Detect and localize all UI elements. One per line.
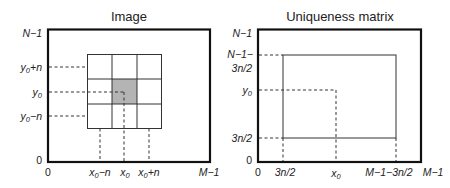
- label-N-minus-1: N−1: [232, 27, 252, 39]
- label-3n-half-bottom: 3n/2: [232, 132, 253, 144]
- label-y0: y0: [32, 86, 43, 100]
- label-3n-half-top: 3n/2: [232, 62, 253, 74]
- uniqueness-guides: [259, 55, 396, 161]
- image-panel-title: Image: [111, 9, 147, 24]
- label-y-zero: 0: [36, 154, 42, 166]
- valid-region-rect: [283, 55, 396, 138]
- uniqueness-panel-title: Uniqueness matrix: [286, 9, 394, 24]
- label-M-minus-1: M−1: [199, 166, 220, 178]
- label-M-minus-1-minus-3n-half: M−1−3n/2: [365, 166, 412, 178]
- label-y0-plus-n: y0+n: [20, 61, 43, 75]
- label-x0: x0: [330, 167, 341, 181]
- label-y-zero: 0: [246, 154, 252, 166]
- label-3n-half-left: 3n/2: [275, 166, 296, 178]
- diagram-canvas: Image N−1 y0+n y0 y0−n 0 0 x0: [0, 0, 450, 188]
- label-x-zero: 0: [45, 166, 51, 178]
- label-x-zero: 0: [255, 166, 261, 178]
- label-x0: x0: [119, 166, 130, 180]
- label-y0: y0: [242, 84, 253, 98]
- image-panel: Image N−1 y0+n y0 y0−n 0 0 x0: [20, 9, 220, 180]
- uniqueness-frame: [258, 30, 421, 163]
- label-x0-plus-n: x0+n: [137, 166, 160, 180]
- label-M-minus-1: M−1: [423, 166, 444, 178]
- label-N-minus-1-minus: N−1−: [227, 48, 253, 60]
- uniqueness-panel: Uniqueness matrix N−1 N−1− 3n/2 y0 3n/2 …: [227, 9, 443, 181]
- label-N-minus-1: N−1: [22, 27, 42, 39]
- label-y0-minus-n: y0−n: [20, 110, 43, 124]
- label-x0-minus-n: x0−n: [88, 166, 111, 180]
